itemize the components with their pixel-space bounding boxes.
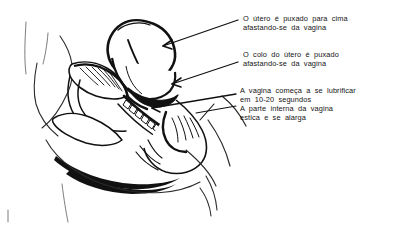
- annotation-uterus-line1: O útero é puxado para cima: [243, 14, 348, 23]
- annotation-uterus: O útero é puxado para cima afastando-se …: [243, 14, 348, 33]
- anatomical-diagram: [0, 0, 412, 225]
- annotation-cervix-line2: afastando-se da vagina: [243, 59, 339, 68]
- leader-cervix: [172, 62, 238, 87]
- figure-page: O útero é puxado para cima afastando-se …: [0, 0, 412, 225]
- annotation-inner-vagina-line2: estica e se alarga: [240, 113, 333, 122]
- leader-inner-vagina: [196, 104, 236, 120]
- rectum: [144, 100, 207, 174]
- annotation-lubrication-line1: A vagina começa a se lubrificar: [240, 86, 356, 95]
- annotation-cervix-line1: O colo do útero é puxado: [243, 50, 339, 59]
- annotation-inner-vagina-line1: A parte interna da vagina: [240, 104, 333, 113]
- annotation-inner-vagina: A parte interna da vagina estica e se al…: [240, 104, 333, 123]
- annotation-uterus-line2: afastando-se da vagina: [243, 23, 348, 32]
- pubic-bone: [53, 114, 123, 146]
- annotation-cervix: O colo do útero é puxado afastando-se da…: [243, 50, 339, 69]
- annotation-lubrication: A vagina começa a se lubrificar em 10-20…: [240, 86, 356, 105]
